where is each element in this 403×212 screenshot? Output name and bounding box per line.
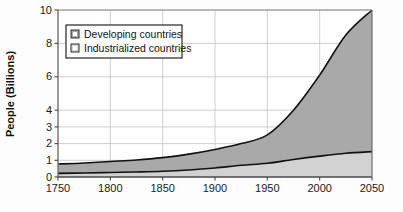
x-axis-ticks: 1750180018501900195020002050 xyxy=(46,177,384,194)
y-tick-label: 1 xyxy=(46,154,52,166)
population-area-chart: 012346810 1750180018501900195020002050 P… xyxy=(0,0,403,212)
legend-label-developing: Developing countries xyxy=(84,28,182,40)
x-tick-label: 1950 xyxy=(255,182,279,194)
legend-swatch-inner-industrialized xyxy=(73,46,77,50)
y-axis-title: People (Billions) xyxy=(4,51,16,138)
legend-item-industrialized[interactable]: Industrialized countries xyxy=(71,42,191,54)
y-tick-label: 3 xyxy=(46,121,52,133)
x-tick-label: 1800 xyxy=(98,182,122,194)
legend-swatch-inner-developing xyxy=(73,32,77,36)
y-tick-label: 6 xyxy=(46,70,52,82)
legend-label-industrialized: Industrialized countries xyxy=(84,42,191,54)
chart-canvas: 012346810 1750180018501900195020002050 P… xyxy=(0,0,403,212)
y-tick-label: 0 xyxy=(46,171,52,183)
y-tick-label: 2 xyxy=(46,137,52,149)
x-tick-label: 1750 xyxy=(46,182,70,194)
legend-item-developing[interactable]: Developing countries xyxy=(71,28,182,40)
x-tick-label: 2000 xyxy=(307,182,331,194)
y-axis-ticks: 012346810 xyxy=(40,4,58,183)
y-tick-label: 10 xyxy=(40,4,52,16)
x-tick-label: 1850 xyxy=(150,182,174,194)
x-tick-label: 2050 xyxy=(360,182,384,194)
y-tick-label: 8 xyxy=(46,37,52,49)
chart-legend[interactable]: Developing countries Industrialized coun… xyxy=(66,25,191,58)
x-tick-label: 1900 xyxy=(203,182,227,194)
y-tick-label: 4 xyxy=(46,104,52,116)
